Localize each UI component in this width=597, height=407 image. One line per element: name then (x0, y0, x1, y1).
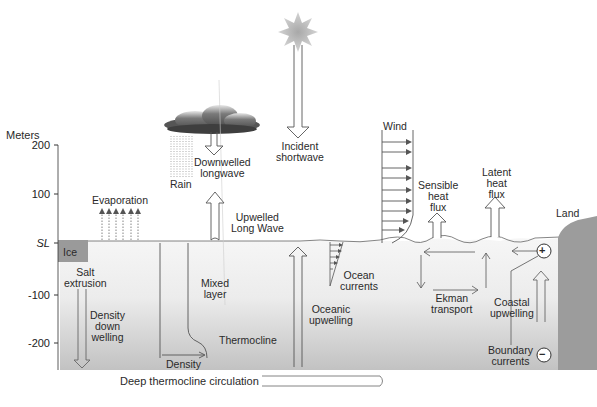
label-coastal-upwelling: Coastal upwelling (490, 297, 534, 319)
label-mixed-layer: Mixed layer (201, 278, 229, 300)
label-downwelled: Downwelled longwave (194, 157, 251, 179)
sun-icon (278, 12, 318, 52)
sensible-heat-arrow (428, 213, 446, 238)
deep-circulation-arrow (262, 376, 383, 386)
rain-lines (171, 136, 192, 178)
label-thermocline: Thermocline (219, 335, 277, 346)
land (558, 216, 597, 370)
minus-icon: − (539, 349, 545, 360)
label-ice: Ice (63, 247, 77, 258)
label-land: Land (556, 208, 579, 219)
upwelled-arrow (206, 192, 224, 240)
label-evaporation: Evaporation (92, 195, 148, 206)
cloud-icon (164, 105, 260, 134)
tick-minus-200: -200 (14, 337, 50, 349)
tick-sl: SL (14, 237, 50, 249)
tick-minus-100: -100 (14, 289, 50, 301)
label-upwelled: Upwelled Long Wave (231, 212, 284, 234)
label-wind: Wind (383, 121, 407, 132)
tick-100: 100 (14, 188, 50, 200)
label-sensible: Sensible heat flux (418, 180, 458, 213)
label-ocean-currents: Ocean currents (340, 270, 378, 292)
label-latent: Latent heat flux (482, 167, 511, 200)
latent-heat-arrow (485, 197, 505, 237)
tick-200: 200 (14, 139, 50, 151)
label-density: Density (166, 359, 201, 370)
label-ekman: Ekman transport (431, 293, 472, 315)
label-density-downwelling: Density down welling (90, 310, 125, 343)
plus-icon: + (539, 245, 545, 256)
incident-shortwave-arrow (287, 45, 309, 138)
label-salt-extrusion: Salt extrusion (64, 267, 107, 289)
label-deep-circulation: Deep thermocline circulation (120, 376, 259, 387)
wind-profile (382, 130, 413, 243)
label-rain: Rain (170, 179, 192, 190)
label-boundary-currents: Boundary currents (488, 345, 533, 367)
label-oceanic-upwelling: Oceanic upwelling (309, 304, 353, 326)
evaporation-arrows (99, 208, 141, 240)
label-incident: Incident shortwave (276, 141, 324, 163)
